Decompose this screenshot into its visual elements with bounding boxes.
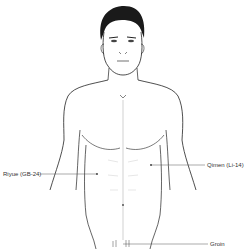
hair [100, 6, 144, 40]
label-groin: Groin [210, 241, 225, 248]
label-riyue: Riyue (GB-24) [3, 171, 41, 178]
label-qimen: Qimen (Li-14) [207, 162, 244, 169]
anatomy-figure [0, 0, 246, 249]
left-shoulder-arm [50, 80, 108, 190]
right-shoulder-arm [138, 80, 196, 190]
